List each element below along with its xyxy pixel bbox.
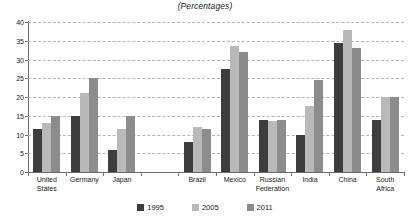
- x-axis-label: Mexico: [216, 176, 254, 185]
- x-axis-label: RussianFederation: [254, 176, 292, 193]
- bar-group: [141, 22, 179, 172]
- y-tick-label-40: 40: [2, 19, 24, 26]
- bar-group-bars: [254, 22, 292, 172]
- bar-group-bars: [28, 22, 66, 172]
- bar: [314, 80, 323, 172]
- legend-item[interactable]: 1995: [137, 203, 164, 212]
- x-axis-label-line1: Mexico: [216, 176, 254, 185]
- bar: [296, 135, 305, 173]
- bar: [71, 116, 80, 172]
- bar: [372, 120, 381, 173]
- x-tick-mark: [216, 172, 217, 176]
- bar: [184, 142, 193, 172]
- bar-group-bars: [291, 22, 329, 172]
- bar-group: [366, 22, 404, 172]
- x-tick-mark: [404, 172, 405, 176]
- bar-group-bars: [66, 22, 104, 172]
- bar: [259, 120, 268, 173]
- x-tick-mark: [66, 172, 67, 176]
- bar-group: [178, 22, 216, 172]
- legend-label: 2011: [257, 203, 273, 212]
- x-axis-label-line2: Federation: [254, 185, 292, 194]
- x-axis-label-line1: South: [366, 176, 404, 185]
- x-tick-mark: [103, 172, 104, 176]
- plot-area: [28, 22, 404, 172]
- x-axis-label: China: [329, 176, 367, 185]
- x-axis-label-line1: Brazil: [178, 176, 216, 185]
- bar: [230, 46, 239, 172]
- bar: [239, 52, 248, 172]
- bar-group: [216, 22, 254, 172]
- x-axis-label-line2: Africa: [366, 185, 404, 194]
- x-axis-label: Japan: [103, 176, 141, 185]
- bar-group: [254, 22, 292, 172]
- bar: [108, 150, 117, 173]
- bar-group: [329, 22, 367, 172]
- bar: [343, 30, 352, 173]
- chart-legend: 199520052011: [0, 203, 410, 212]
- x-axis-label-line1: China: [329, 176, 367, 185]
- bar-chart: (Percentages) 0510152025303540 UnitedSta…: [0, 0, 410, 220]
- bar-group-bars: [366, 22, 404, 172]
- y-tick-label-20: 20: [2, 94, 24, 101]
- bar-group-bars: [216, 22, 254, 172]
- y-axis-tick-labels: 0510152025303540: [0, 22, 24, 172]
- bar-group-bars: [103, 22, 141, 172]
- x-axis-label-line1: India: [291, 176, 329, 185]
- bar: [221, 69, 230, 172]
- y-tick-label-25: 25: [2, 75, 24, 82]
- bar-group: [28, 22, 66, 172]
- bar: [126, 116, 135, 172]
- x-axis-label-line2: States: [28, 185, 66, 194]
- legend-swatch-icon: [247, 204, 254, 211]
- y-tick-label-30: 30: [2, 56, 24, 63]
- x-axis-label-line1: United: [28, 176, 66, 185]
- bar-group-bars: [141, 22, 179, 172]
- bar: [193, 127, 202, 172]
- y-tick-label-15: 15: [2, 112, 24, 119]
- x-tick-mark: [366, 172, 367, 176]
- x-tick-mark: [141, 172, 142, 176]
- bar: [390, 97, 399, 172]
- x-axis-label: Brazil: [178, 176, 216, 185]
- chart-title: (Percentages): [0, 1, 410, 11]
- legend-item[interactable]: 2011: [247, 203, 273, 212]
- bar: [89, 78, 98, 172]
- y-tick-label-0: 0: [2, 169, 24, 176]
- x-axis-label-line1: Japan: [103, 176, 141, 185]
- bar: [352, 48, 361, 172]
- bar: [305, 106, 314, 172]
- bar: [334, 43, 343, 172]
- legend-label: 1995: [147, 203, 164, 212]
- x-tick-mark: [254, 172, 255, 176]
- x-tick-mark: [28, 172, 29, 176]
- bar-group: [291, 22, 329, 172]
- legend-swatch-icon: [192, 204, 199, 211]
- bar: [51, 116, 60, 172]
- bar: [33, 129, 42, 172]
- x-axis-label: SouthAfrica: [366, 176, 404, 193]
- x-tick-mark: [329, 172, 330, 176]
- x-axis-label-line1: Russian: [254, 176, 292, 185]
- bar-group-bars: [178, 22, 216, 172]
- bar: [277, 120, 286, 173]
- x-axis-label-line1: Germany: [66, 176, 104, 185]
- legend-item[interactable]: 2005: [192, 203, 219, 212]
- bar: [381, 97, 390, 172]
- bar: [42, 123, 51, 172]
- bar-group: [103, 22, 141, 172]
- y-tick-label-35: 35: [2, 37, 24, 44]
- x-axis-label: India: [291, 176, 329, 185]
- x-axis-label: Germany: [66, 176, 104, 185]
- bar: [202, 129, 211, 172]
- bar: [117, 129, 126, 172]
- x-axis-label: UnitedStates: [28, 176, 66, 193]
- bar-group: [66, 22, 104, 172]
- x-tick-mark: [291, 172, 292, 176]
- y-tick-label-5: 5: [2, 150, 24, 157]
- bar: [80, 93, 89, 172]
- y-tick-label-10: 10: [2, 131, 24, 138]
- x-tick-mark: [178, 172, 179, 176]
- bar: [268, 121, 277, 172]
- bar-group-bars: [329, 22, 367, 172]
